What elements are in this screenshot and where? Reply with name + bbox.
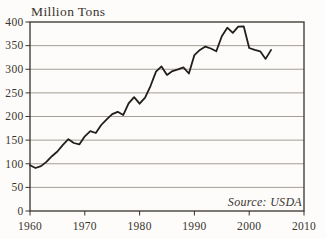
x-tick-label: 1960	[18, 220, 42, 232]
y-tick-label: 100	[5, 158, 23, 170]
gridlines	[30, 46, 304, 188]
chart-title: Million Tons	[31, 4, 106, 19]
x-tick-label: 2010	[292, 220, 316, 232]
x-tick-label: 2000	[237, 220, 261, 232]
y-tick-marks	[26, 22, 31, 211]
production-line	[30, 26, 271, 168]
chart-card: Million Tons 400 350 300 250 200 150 100…	[0, 0, 326, 239]
y-tick-label: 150	[5, 134, 23, 146]
y-tick-label: 250	[5, 87, 23, 99]
y-tick-label: 350	[5, 39, 23, 51]
y-axis-labels: 400 350 300 250 200 150 100 50 0	[5, 16, 23, 217]
source-label: Source: USDA	[228, 195, 303, 209]
x-tick-label: 1980	[127, 220, 151, 232]
y-tick-label: 0	[17, 205, 23, 217]
x-axis-labels: 1960 1970 1980 1990 2000 2010	[18, 220, 316, 232]
y-tick-label: 200	[5, 110, 23, 122]
y-tick-label: 400	[5, 16, 23, 28]
x-tick-marks	[30, 211, 304, 216]
y-tick-label: 50	[11, 181, 23, 193]
x-tick-label: 1990	[182, 220, 206, 232]
chart: Million Tons 400 350 300 250 200 150 100…	[0, 0, 326, 239]
y-tick-label: 300	[5, 63, 23, 75]
x-tick-label: 1970	[73, 220, 97, 232]
